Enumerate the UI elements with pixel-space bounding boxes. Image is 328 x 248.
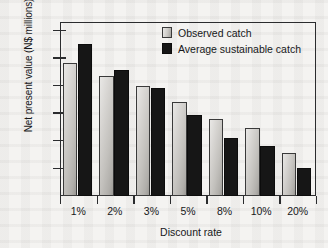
y-axis-title: Net present value (N$ millions) [23, 0, 34, 156]
x-axis-title: Discount rate [60, 226, 322, 238]
chart-legend: Observed catchAverage sustainable catch [162, 27, 301, 59]
bar-observed-5pct [172, 102, 187, 196]
x-tick-mark [316, 196, 317, 204]
legend-swatch-observed [162, 27, 172, 38]
bar-observed-2pct [99, 76, 114, 196]
x-tick-mark [133, 196, 134, 204]
x-tick-label: 2% [107, 205, 122, 217]
bar-sustainable-1pct [78, 44, 93, 196]
legend-item-label: Average sustainable catch [178, 43, 301, 55]
x-tick-mark [279, 196, 280, 204]
bar-sustainable-20pct [297, 168, 312, 196]
x-tick-label: 3% [144, 205, 159, 217]
legend-swatch-sustainable [162, 43, 172, 54]
legend-item: Observed catch [162, 27, 301, 38]
x-tick-label: 1% [71, 205, 86, 217]
x-tick-mark [97, 196, 98, 204]
bar-chart-figure: Net present value (N$ millions) 20004000… [0, 0, 328, 248]
bar-sustainable-8pct [224, 138, 239, 196]
bar-sustainable-3pct [151, 88, 166, 196]
bar-observed-10pct [245, 128, 260, 196]
bar-observed-3pct [136, 86, 151, 196]
x-tick-label: 20% [287, 205, 308, 217]
legend-item: Average sustainable catch [162, 43, 301, 54]
x-tick-mark [243, 196, 244, 204]
x-tick-label: 5% [180, 205, 195, 217]
bar-observed-20pct [282, 153, 297, 196]
x-tick-mark [60, 196, 61, 204]
legend-item-label: Observed catch [178, 27, 252, 39]
x-tick-label: 8% [217, 205, 232, 217]
bar-observed-1pct [63, 63, 78, 196]
x-tick-mark [170, 196, 171, 204]
bar-sustainable-10pct [260, 146, 275, 196]
bar-sustainable-5pct [187, 115, 202, 196]
bar-sustainable-2pct [114, 70, 129, 196]
x-tick-label: 10% [251, 205, 272, 217]
bar-observed-8pct [209, 119, 224, 196]
x-tick-mark [206, 196, 207, 204]
